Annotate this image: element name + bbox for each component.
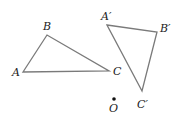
label-c: C xyxy=(113,65,122,78)
triangle-abc xyxy=(23,35,109,72)
label-a-prime: A′ xyxy=(100,10,112,23)
label-b-prime: B′ xyxy=(159,22,171,35)
label-c-prime: C′ xyxy=(137,98,148,111)
label-o: O xyxy=(109,102,118,115)
triangle-a-prime-b-prime-c-prime xyxy=(107,25,157,91)
label-a: A xyxy=(11,66,20,79)
rotation-diagram: A B C A′ B′ C′ O xyxy=(0,0,178,118)
center-point-o xyxy=(112,97,116,101)
label-b: B xyxy=(42,20,51,33)
